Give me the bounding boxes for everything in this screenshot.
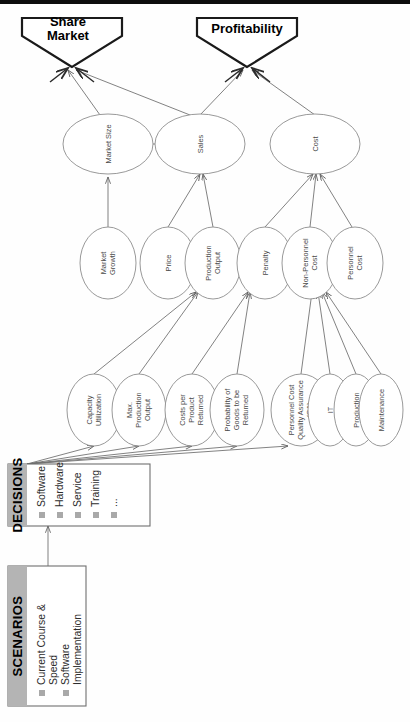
node-max-production-output[interactable]: Max. Production Output: [112, 374, 166, 446]
bullet-icon: [93, 512, 99, 518]
scenarios-item-0-line-0: Current Course &: [36, 604, 47, 685]
edge-sales-to-market-share: [76, 70, 190, 115]
scenarios-item-0-line-1: Speed: [48, 655, 59, 685]
node-cost[interactable]: Cost: [270, 114, 360, 174]
node-label-line-1: Cost: [310, 255, 319, 270]
node-personnel-cost[interactable]: Personnel Cost: [327, 227, 383, 299]
edge-personnel-cost-qa-to-personnel-cost: [301, 292, 312, 374]
edge-tip-profitability-right: [252, 68, 270, 82]
node-label-line-0: Capacity: [85, 395, 94, 424]
node-label-line-1: Growth: [108, 251, 117, 275]
goal-label-line-0: Market: [47, 28, 90, 43]
edge-decisions-to-personnel-cost-qa: [27, 446, 288, 464]
edge-max-production-output-to-production-output: [139, 292, 198, 374]
decisions-item-3: Training: [90, 470, 101, 507]
node-label-line-1: Utilization: [94, 394, 103, 426]
edge-tip-market-share-right: [76, 68, 94, 82]
edge-probability-goods-returned-to-penalty: [237, 292, 250, 374]
node-label-line-2: Returned: [196, 395, 205, 425]
node-label-line-2: Output: [143, 399, 152, 421]
decisions-item-1: Hardware: [54, 462, 65, 507]
bullet-icon: [75, 512, 81, 518]
node-label-line-0: Penalty: [261, 250, 270, 275]
edge-capacity-utilization-to-production-output: [94, 292, 196, 374]
edge-personnel-cost-to-cost: [320, 174, 352, 227]
edge-decisions-to-costs-per-product-returned: [27, 446, 192, 464]
scenarios-item-1-line-1: Implementation: [72, 614, 83, 685]
node-label-line-0: Non-Personnel: [301, 238, 310, 288]
node-label-line-1: Production: [134, 392, 143, 427]
goal-market-share[interactable]: Market Share: [22, 14, 122, 67]
node-label-line-0: Price: [164, 255, 173, 272]
edge-it-to-personnel-cost: [318, 292, 330, 374]
diagram-page: SCENARIOS Current Course & Speed Softwar…: [0, 0, 410, 722]
node-label-line-1: Quality Assurance: [296, 380, 305, 440]
decisions-item-0: Software: [36, 466, 47, 507]
node-label-line-1: Cost: [355, 255, 364, 270]
node-label-line-1: Product: [187, 397, 196, 422]
node-probability-goods-returned[interactable]: Probability of Goods to be Returned: [210, 374, 264, 446]
node-label-line-0: Max.: [125, 402, 134, 418]
node-market-size[interactable]: Market Size: [63, 114, 153, 174]
bullet-icon: [63, 690, 69, 696]
node-label-line-0: Costs per: [178, 394, 187, 426]
bullet-icon: [39, 512, 45, 518]
node-label-line-0: Probability of: [223, 388, 232, 432]
rotated-diagram-canvas: SCENARIOS Current Course & Speed Softwar…: [0, 0, 410, 722]
bullet-icon: [39, 690, 45, 696]
edge-market-size-to-market-share: [68, 70, 100, 115]
panel-scenarios[interactable]: SCENARIOS Current Course & Speed Softwar…: [8, 566, 86, 706]
scenarios-title: SCENARIOS: [10, 596, 25, 677]
node-label-line-0: Sales: [196, 134, 205, 153]
bullet-icon: [57, 512, 63, 518]
edge-non-personnel-cost-to-cost: [310, 174, 316, 227]
node-label-line-0: Production: [204, 245, 213, 280]
node-label-line-0: Market: [99, 252, 108, 275]
edge-costs-per-product-returned-to-penalty: [192, 292, 248, 374]
influence-diagram-svg: SCENARIOS Current Course & Speed Softwar…: [0, 0, 410, 722]
node-label-line-0: Maintenance: [377, 389, 386, 431]
edge-production-output-to-sales: [203, 174, 213, 227]
goal-label-line-1: Share: [50, 14, 86, 29]
edge-sales-to-profitability: [200, 70, 243, 115]
node-sales[interactable]: Sales: [155, 114, 245, 174]
edge-price-to-sales: [168, 174, 200, 227]
panel-decisions[interactable]: DECISIONS Software Hardware Service Trai…: [8, 457, 150, 532]
node-label-line-0: Personnel Cost: [287, 385, 296, 436]
scenarios-item-1-line-0: Software: [60, 644, 71, 685]
decisions-item-4: ...: [108, 498, 119, 507]
edge-cost-to-profitability: [252, 70, 315, 115]
edge-penalty-to-cost: [265, 174, 313, 227]
node-label-line-1: Output: [213, 252, 222, 274]
node-maintenance[interactable]: Maintenance: [359, 374, 403, 446]
decisions-item-2: Service: [72, 472, 83, 507]
node-label-line-0: Personnel: [346, 246, 355, 280]
goal-label-line-0: Profitability: [211, 21, 283, 36]
node-production-output[interactable]: Production Output: [185, 227, 241, 299]
node-label-line-0: Market Size: [104, 124, 113, 163]
node-market-growth[interactable]: Market Growth: [80, 227, 136, 299]
edge-maintenance-to-personnel-cost: [326, 292, 381, 374]
bullet-icon: [111, 512, 117, 518]
decisions-title: DECISIONS: [10, 457, 25, 532]
goal-profitability[interactable]: Profitability: [197, 18, 297, 67]
node-label-line-2: Returned: [241, 395, 250, 425]
edge-tip-market-share-left: [50, 68, 68, 82]
node-label-line-0: Cost: [311, 136, 320, 151]
edge-production-to-personnel-cost: [322, 292, 356, 374]
node-label-line-1: Goods to be: [232, 390, 241, 430]
